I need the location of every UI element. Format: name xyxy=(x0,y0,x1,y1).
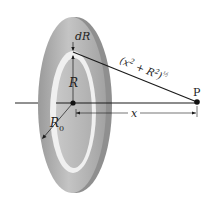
dR-label: dR xyxy=(75,30,90,43)
disk-diagram: dR R R 0 x P (x2 + R2)½ xyxy=(0,0,211,200)
distance-formula: (x2 + R2)½ xyxy=(118,53,170,84)
formula-plus-R: + R xyxy=(131,60,156,79)
R0-subscript: 0 xyxy=(59,124,64,133)
P-label: P xyxy=(193,86,201,99)
R-label: R xyxy=(68,76,78,90)
disk-center-point xyxy=(70,100,75,105)
point-P xyxy=(194,99,200,105)
R0-label: R xyxy=(49,116,59,130)
x-arrowhead-right-icon xyxy=(192,112,196,115)
x-label: x xyxy=(131,107,138,120)
svg-text:(x2 + R2)½: (x2 + R2)½ xyxy=(118,53,170,84)
formula-exponent: ½ xyxy=(162,70,170,79)
